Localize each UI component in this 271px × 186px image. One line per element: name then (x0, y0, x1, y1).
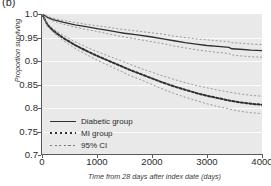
chart-figure: (b) Proportion surviving 0.70.750.80.850… (0, 0, 271, 186)
series-line (42, 14, 262, 45)
series-line (42, 14, 262, 114)
x-tick-label: 4000 (251, 157, 271, 167)
chart-legend: Diabetic group MI group 95% CI (50, 115, 133, 151)
y-tick-label: 0.9 (4, 56, 38, 66)
y-tick-label: 0.85 (4, 80, 38, 90)
y-tick-label: 0.7 (4, 150, 38, 160)
y-tick-mark (38, 61, 41, 62)
y-tick-mark (38, 108, 41, 109)
x-tick-label: 2000 (141, 157, 162, 167)
y-tick-label: 0.8 (4, 103, 38, 113)
x-tick-mark (42, 155, 43, 158)
legend-item-diabetic: Diabetic group (50, 115, 133, 127)
x-tick-label: 0 (39, 157, 44, 167)
series-line (42, 14, 262, 57)
x-axis-label: Time from 28 days after index date (days… (0, 172, 271, 181)
y-tick-mark (38, 14, 41, 15)
legend-label-ci: 95% CI (81, 141, 107, 150)
x-tick-mark (152, 155, 153, 158)
legend-key-dotted-icon (50, 130, 76, 137)
series-line (42, 14, 262, 96)
y-tick-label: 1.0 (4, 9, 38, 19)
legend-label-mi: MI group (81, 129, 113, 138)
y-tick-mark (38, 132, 41, 133)
y-axis-line (41, 14, 42, 155)
x-tick-mark (207, 155, 208, 158)
y-tick-label: 0.95 (4, 33, 38, 43)
x-tick-label: 3000 (196, 157, 217, 167)
legend-item-ci: 95% CI (50, 139, 133, 151)
legend-item-mi: MI group (50, 127, 133, 139)
y-tick-label: 0.75 (4, 127, 38, 137)
x-tick-mark (262, 155, 263, 158)
series-line (42, 14, 262, 105)
y-tick-mark (38, 155, 41, 156)
legend-key-solid-icon (50, 118, 76, 125)
y-axis-ticks: 0.70.750.80.850.90.951.0 (0, 0, 38, 186)
x-tick-mark (97, 155, 98, 158)
y-tick-mark (38, 85, 41, 86)
legend-label-diabetic: Diabetic group (81, 117, 133, 126)
legend-key-ci-icon (50, 142, 76, 149)
y-tick-mark (38, 38, 41, 39)
x-tick-label: 1000 (86, 157, 107, 167)
